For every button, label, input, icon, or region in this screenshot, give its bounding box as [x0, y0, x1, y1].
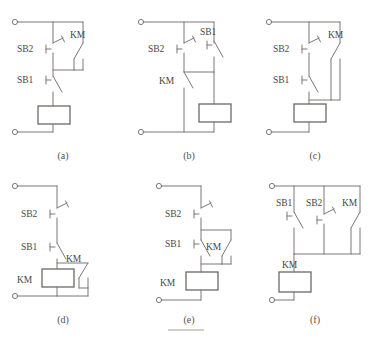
- label-sb2-a: SB2: [17, 44, 34, 54]
- caption-f: (f): [252, 314, 378, 325]
- caption-c: (c): [252, 150, 378, 161]
- km-coil-b: [199, 104, 231, 122]
- sb2-nc-contact-a: [46, 36, 65, 53]
- terminal-dot-bottom: [12, 129, 17, 134]
- sb2-nc-contact-f: [317, 186, 336, 254]
- caption-a: (a): [0, 150, 126, 161]
- terminal-dot-top: [269, 183, 274, 188]
- circuit-panel-e: SB2 SB1 KM KM: [126, 168, 252, 336]
- circuit-panel-f: SB1 SB2 KM KM: [252, 168, 378, 336]
- label-km-contact-f: KM: [342, 198, 358, 208]
- caption-e: (e): [126, 314, 252, 325]
- sb1-no-contact-a: [46, 76, 62, 92]
- figure-sheet: SB2 SB1 KM (a): [0, 0, 379, 337]
- circuit-panel-b: SB2 SB1 KM: [126, 0, 252, 168]
- label-sb1-f: SB1: [276, 198, 293, 208]
- terminal-dot-top: [156, 183, 161, 188]
- label-km-a: KM: [70, 30, 86, 40]
- label-sb2-b: SB2: [148, 44, 165, 54]
- km-coil-f: [279, 272, 311, 292]
- label-km-contact-e: KM: [206, 242, 222, 252]
- circuit-panel-c: SB2 SB1 KM: [252, 0, 378, 168]
- sb1-no-contact-f: [287, 186, 303, 254]
- terminal-dot-top: [12, 19, 17, 24]
- sb2-nc-contact-d: [50, 201, 69, 218]
- sb1-no-contact-c: [302, 76, 318, 92]
- sb1-no-contact-d: [50, 243, 66, 259]
- km-coil-a: [38, 106, 70, 124]
- label-sb1-e: SB1: [165, 239, 182, 249]
- sb1-no-contact-b: [207, 41, 223, 57]
- label-sb2-f: SB2: [306, 198, 323, 208]
- km-holding-branch-d: [57, 263, 88, 296]
- label-sb1-b: SB1: [200, 27, 217, 37]
- caption-b: (b): [126, 150, 252, 161]
- terminal-dot-top: [138, 19, 143, 24]
- label-sb1-d: SB1: [21, 242, 38, 252]
- label-sb2-c: SB2: [273, 44, 290, 54]
- label-km-coil-d: KM: [17, 275, 33, 285]
- label-sb1-c: SB1: [273, 75, 290, 85]
- terminal-dot-top: [12, 183, 17, 188]
- km-coil-c: [294, 104, 326, 122]
- circuit-panel-d: SB2 SB1 KM KM: [0, 168, 126, 336]
- caption-d: (d): [0, 314, 126, 325]
- sb2-nc-contact-c: [302, 36, 321, 53]
- label-sb2-d: SB2: [21, 209, 38, 219]
- label-km-coil-f: KM: [282, 260, 298, 270]
- terminal-dot-top: [266, 19, 271, 24]
- terminal-dot-bottom: [156, 297, 161, 302]
- label-sb1-a: SB1: [17, 75, 34, 85]
- km-no-contact-b: [184, 72, 193, 88]
- circuit-panel-a: SB2 SB1 KM: [0, 0, 126, 168]
- terminal-dot-bottom: [269, 297, 274, 302]
- label-km-coil-e: KM: [160, 278, 176, 288]
- terminal-dot-bottom: [266, 129, 271, 134]
- label-km-contact-d: KM: [66, 254, 82, 264]
- label-km-b: KM: [159, 76, 175, 86]
- sb2-nc-contact-b: [177, 36, 196, 53]
- terminal-dot-bottom: [12, 293, 17, 298]
- label-sb2-e: SB2: [165, 209, 182, 219]
- terminal-dot-bottom: [138, 129, 143, 134]
- km-coil-d: [42, 269, 74, 287]
- km-no-contact-f: [351, 186, 360, 254]
- sb2-nc-contact-e: [194, 201, 213, 218]
- km-coil-e: [186, 272, 218, 290]
- page-artifact-mark: [168, 329, 204, 331]
- label-km-c: KM: [328, 30, 344, 40]
